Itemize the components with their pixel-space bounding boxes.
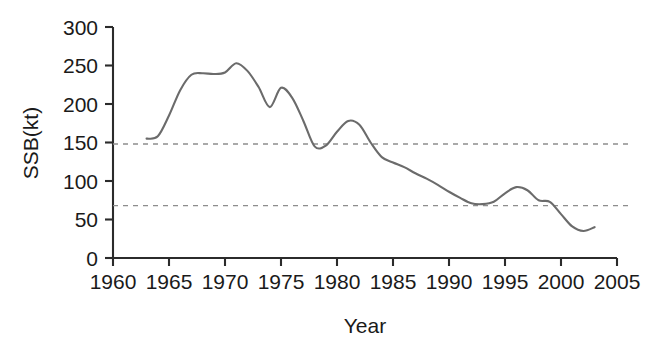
x-tick-label-1990: 1990 [426, 270, 473, 293]
y-axis-group: 300 250 200 150 100 50 0 SSB(kt) [19, 16, 113, 270]
y-tick-label-150: 150 [63, 131, 98, 154]
y-axis-title: SSB(kt) [19, 107, 42, 179]
x-tick-label-1960: 1960 [90, 270, 137, 293]
y-tick-label-250: 250 [63, 54, 98, 77]
y-tick-label-0: 0 [86, 247, 98, 270]
x-tick-label-1980: 1980 [314, 270, 361, 293]
x-axis-ticks [113, 258, 617, 266]
y-tick-label-50: 50 [75, 208, 98, 231]
y-tick-label-300: 300 [63, 16, 98, 39]
x-tick-label-1965: 1965 [146, 270, 193, 293]
x-tick-label-1985: 1985 [370, 270, 417, 293]
chart-container: 300 250 200 150 100 50 0 SSB(kt) [0, 0, 672, 349]
x-tick-label-2005: 2005 [594, 270, 641, 293]
y-axis-tick-labels: 300 250 200 150 100 50 0 [63, 16, 98, 270]
y-axis-ticks [105, 27, 113, 258]
y-tick-label-200: 200 [63, 93, 98, 116]
x-tick-label-2000: 2000 [538, 270, 585, 293]
x-axis-tick-labels: 1960 1965 1970 1975 1980 1985 1990 1995 … [90, 270, 641, 293]
reference-lines-group [113, 144, 628, 206]
x-axis-group: 1960 1965 1970 1975 1980 1985 1990 1995 … [90, 258, 641, 337]
y-tick-label-100: 100 [63, 170, 98, 193]
x-tick-label-1995: 1995 [482, 270, 529, 293]
x-axis-title: Year [344, 314, 386, 337]
x-tick-label-1970: 1970 [202, 270, 249, 293]
x-tick-label-1975: 1975 [258, 270, 305, 293]
ssb-line-chart: 300 250 200 150 100 50 0 SSB(kt) [0, 0, 672, 349]
